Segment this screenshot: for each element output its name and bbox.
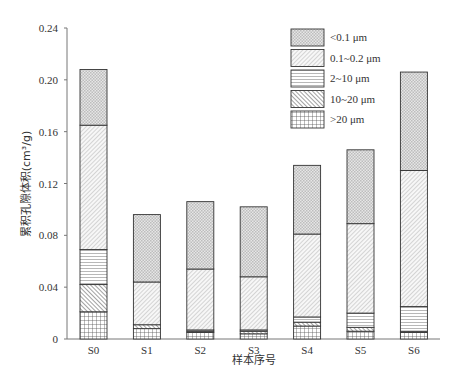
y-tick-label: 0.16 xyxy=(39,126,59,138)
bar-segment xyxy=(240,334,267,339)
bar-segment xyxy=(133,325,160,329)
legend-swatch xyxy=(291,50,324,67)
y-tick-label: 0.12 xyxy=(39,178,58,190)
bar-segment xyxy=(133,215,160,282)
y-tick-label: 0.20 xyxy=(39,74,59,86)
x-tick-label: S0 xyxy=(88,344,100,356)
bar-segment xyxy=(294,326,321,339)
bar-segment xyxy=(294,317,321,322)
bar-segment xyxy=(240,207,267,277)
legend-label: >20 μm xyxy=(330,113,365,125)
x-tick-label: S2 xyxy=(194,344,206,356)
y-tick-label: 0.04 xyxy=(39,281,59,293)
bar-segment xyxy=(347,224,374,313)
bar-segment xyxy=(347,313,374,327)
bar-s6 xyxy=(400,72,427,339)
legend-label: 10~20 μm xyxy=(330,93,376,105)
stacked-bar-chart: 00.040.080.120.160.200.24 S0S1S2S3S4S5S6… xyxy=(0,0,458,388)
bar-segment xyxy=(80,285,107,312)
bar-segment xyxy=(133,329,160,339)
bar-segment xyxy=(347,150,374,224)
bar-s4 xyxy=(294,165,321,339)
bar-s0 xyxy=(80,69,107,339)
legend-swatch xyxy=(291,70,324,87)
y-tick-label: 0 xyxy=(53,333,59,345)
legend-swatch xyxy=(291,91,324,108)
y-tick-label: 0.24 xyxy=(39,22,59,34)
bar-s2 xyxy=(187,202,214,339)
bar-segment xyxy=(80,312,107,339)
bar-segment xyxy=(400,171,427,307)
x-tick-label: S5 xyxy=(355,344,367,356)
legend-item: <0.1 μm xyxy=(291,29,368,46)
bar-s1 xyxy=(133,215,160,339)
bar-segment xyxy=(400,72,427,170)
y-axis-title: 累积孔隙体积(cm³/g) xyxy=(19,131,33,237)
bar-segment xyxy=(187,202,214,269)
bar-segment xyxy=(294,165,321,234)
legend-swatch xyxy=(291,111,324,128)
bar-segment xyxy=(400,307,427,332)
bar-segment xyxy=(133,282,160,325)
bar-segment xyxy=(294,322,321,326)
legend-item: >20 μm xyxy=(291,111,365,128)
bar-segment xyxy=(80,250,107,285)
x-tick-label: S4 xyxy=(301,344,313,356)
legend-item: 2~10 μm xyxy=(291,70,370,87)
x-tick-label: S6 xyxy=(408,344,420,356)
x-tick-label: S1 xyxy=(141,344,153,356)
bar-segment xyxy=(187,333,214,339)
legend-item: 0.1~0.2 μm xyxy=(291,50,381,67)
bar-segment xyxy=(187,269,214,330)
bar-segment xyxy=(347,331,374,339)
legend-item: 10~20 μm xyxy=(291,91,376,108)
y-tick-label: 0.08 xyxy=(39,229,59,241)
bar-segment xyxy=(240,277,267,330)
bar-segment xyxy=(80,69,107,125)
legend-label: 2~10 μm xyxy=(330,72,370,84)
legend-label: 0.1~0.2 μm xyxy=(330,52,381,64)
x-axis-title: 样本序号 xyxy=(232,353,276,367)
y-axis: 00.040.080.120.160.200.24 xyxy=(39,22,67,345)
legend-label: <0.1 μm xyxy=(330,31,368,43)
bar-segment xyxy=(347,327,374,331)
bar-s3 xyxy=(240,207,267,339)
legend: <0.1 μm0.1~0.2 μm2~10 μm10~20 μm>20 μm xyxy=(291,29,381,128)
bar-segment xyxy=(400,333,427,339)
bar-s5 xyxy=(347,150,374,339)
bar-segment xyxy=(294,234,321,317)
bars-group xyxy=(80,69,427,339)
legend-swatch xyxy=(291,29,324,46)
bar-segment xyxy=(80,125,107,249)
